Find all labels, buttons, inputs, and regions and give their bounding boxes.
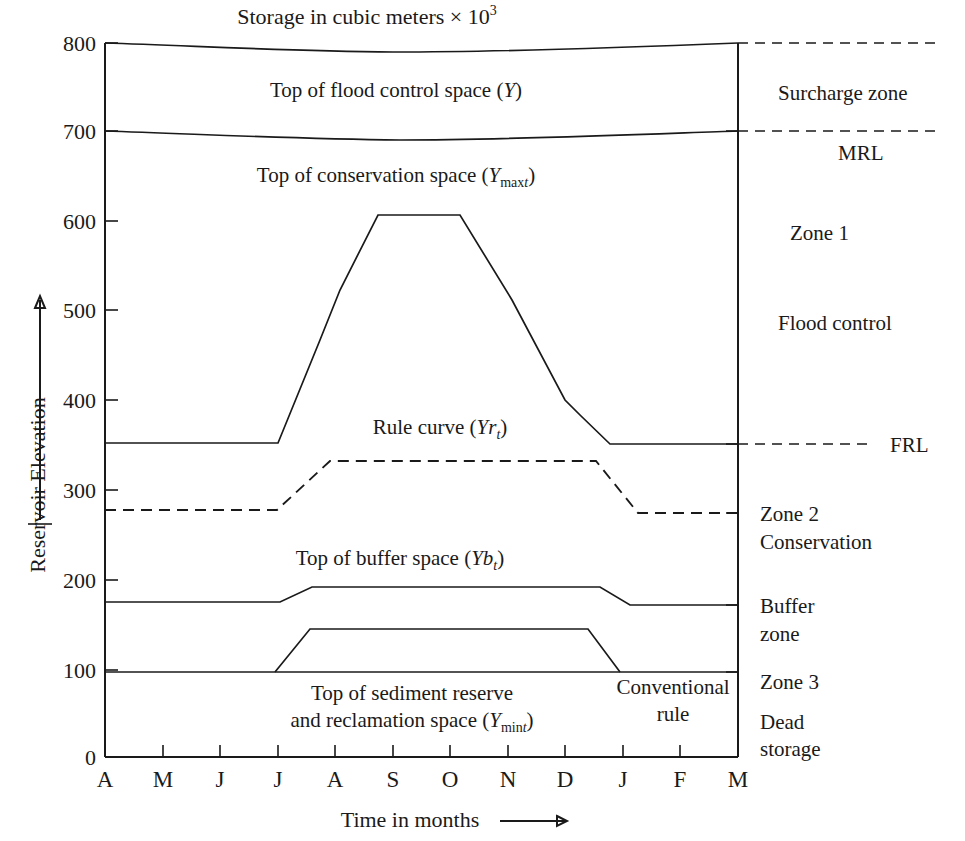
y-ticks (105, 43, 118, 757)
x-axis-title-group: Time in months (341, 807, 567, 832)
curve-conventional-rule (275, 629, 620, 672)
zone-label-storage: storage (760, 737, 821, 761)
x-tick-label: A (97, 767, 114, 792)
x-tick-label: J (274, 767, 283, 792)
x-tick-label: M (728, 767, 748, 792)
zone-label-buffer: Buffer (760, 594, 814, 618)
label-rule-curve: Rule curve (Yrt) (373, 415, 508, 442)
chart-canvas: Storage in cubic meters × 103 800 7 (0, 0, 965, 841)
y-tick-label: 200 (63, 568, 96, 593)
y-tick-label: 600 (63, 209, 96, 234)
reservoir-rule-curve-figure: Storage in cubic meters × 103 800 7 (0, 0, 965, 841)
y-tick-label: 700 (63, 119, 96, 144)
curve-buffer-space (105, 587, 738, 605)
x-axis-title: Time in months (341, 807, 480, 832)
x-tick-label: N (500, 767, 517, 792)
zone-label-zone1: Zone 1 (790, 221, 849, 245)
y-tick-label: 0 (85, 745, 96, 770)
zone-label-mrl: MRL (838, 141, 884, 165)
label-sediment-reserve-line2: and reclamation space (Ymint) (290, 708, 533, 735)
label-buffer-space: Top of buffer space (Ybt) (296, 546, 504, 573)
x-ticks (105, 745, 738, 757)
label-conservation-space: Top of conservation space (Ymaxt) (257, 163, 535, 190)
x-tick-label: A (327, 767, 344, 792)
x-tick-label: D (557, 767, 574, 792)
axes (105, 43, 738, 757)
x-tick-label: J (619, 767, 628, 792)
label-flood-control-space: Top of flood control space (Y) (270, 78, 522, 102)
zone-label-zone3: Zone 3 (760, 670, 819, 694)
x-tick-label: O (442, 767, 459, 792)
zone-label-conservation: Conservation (760, 530, 872, 554)
y-tick-labels: 800 700 600 500 400 300 200 100 0 (63, 31, 96, 770)
zone-label-buffer-zone: zone (760, 622, 800, 646)
x-tick-label: J (216, 767, 225, 792)
label-conventional-rule-line2: rule (657, 702, 690, 726)
zone-label-zone2: Zone 2 (760, 502, 819, 526)
zone-label-surcharge-zone: Surcharge zone (778, 81, 908, 105)
curve-rule-curve (105, 215, 738, 444)
curve-zone2-dashed (105, 461, 738, 513)
x-tick-label: F (674, 767, 687, 792)
y-tick-label: 800 (63, 31, 96, 56)
right-border-ticks (726, 131, 738, 672)
y-tick-label: 400 (63, 388, 96, 413)
y-axis-title-group: Reservoir Elevation (25, 296, 52, 573)
curve-conservation-space (105, 131, 738, 140)
x-tick-label: M (153, 767, 173, 792)
x-tick-label: S (387, 767, 400, 792)
label-conventional-rule-line1: Conventional (616, 675, 729, 699)
x-tick-labels: A M J J A S O N D J F M (97, 767, 749, 792)
y-tick-label: 300 (63, 478, 96, 503)
zone-label-frl: FRL (890, 433, 929, 457)
y-tick-label: 100 (63, 658, 96, 683)
curve-flood-control-space (105, 43, 738, 52)
y-axis-title: Reservoir Elevation (25, 397, 50, 572)
zone-label-dead: Dead (760, 710, 805, 734)
y-tick-label: 500 (63, 298, 96, 323)
chart-title: Storage in cubic meters × 103 (237, 3, 497, 29)
right-zone-labels: Surcharge zone MRL Zone 1 Flood control … (760, 81, 929, 761)
label-sediment-reserve-line1: Top of sediment reserve (311, 681, 513, 705)
zone-label-flood-control: Flood control (778, 311, 892, 335)
